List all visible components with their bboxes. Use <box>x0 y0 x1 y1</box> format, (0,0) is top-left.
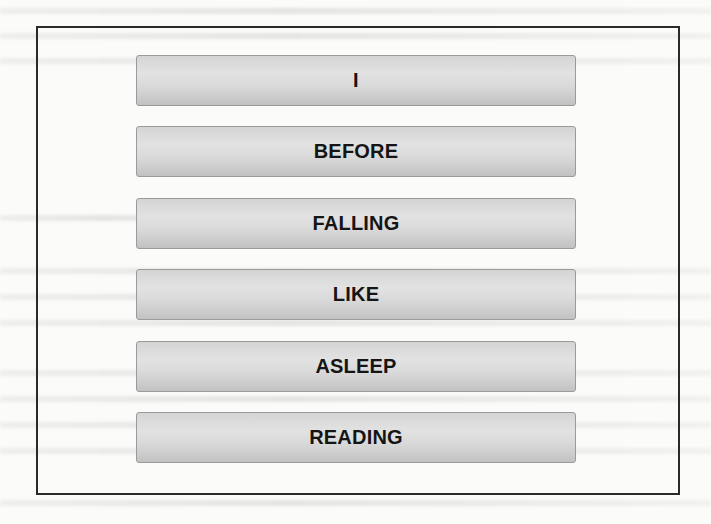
diagram-frame: I BEFORE FALLING LIKE ASLEEP READING <box>36 26 680 495</box>
word-label: BEFORE <box>314 140 399 163</box>
word-label: ASLEEP <box>315 355 396 378</box>
word-label: I <box>353 69 359 92</box>
word-box-2: BEFORE <box>136 126 576 177</box>
word-box-6: READING <box>136 412 576 463</box>
word-label: FALLING <box>313 212 400 235</box>
word-label: READING <box>309 426 403 449</box>
word-box-1: I <box>136 55 576 106</box>
ghost-line <box>0 8 711 14</box>
word-label: LIKE <box>333 283 379 306</box>
word-box-3: FALLING <box>136 198 576 249</box>
word-box-4: LIKE <box>136 269 576 320</box>
ghost-line <box>0 500 711 506</box>
word-box-5: ASLEEP <box>136 341 576 392</box>
